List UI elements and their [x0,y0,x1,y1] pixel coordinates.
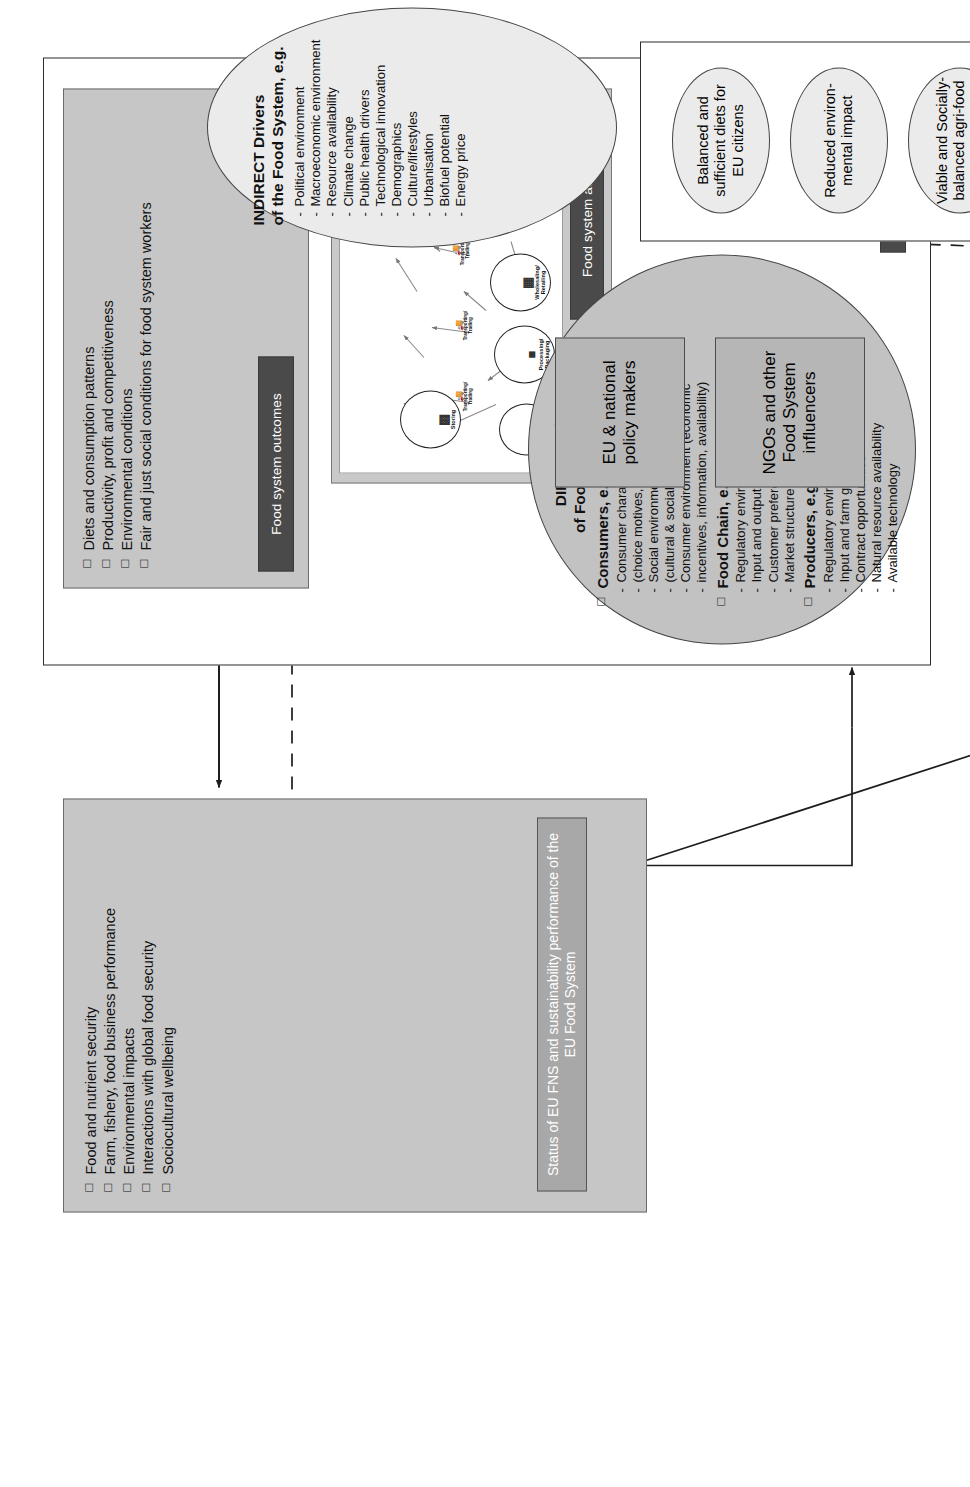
producers-item: Natural resource availability [869,277,885,593]
ngos-box: NGOs and other Food System influencers [715,337,865,487]
indirect-item: Energy price [453,25,469,217]
policy-goal-label: Balanced and sufficient diets for EU cit… [695,76,746,204]
activity-node-wholesaling: ▦ Wholesaling/ Retailing [490,253,551,311]
group-heading: Food Chain, e.g. [714,471,731,588]
indirect-item: Political environment [292,25,308,217]
transport-label-2: 🚚 Transporting/ Trading [455,303,474,347]
group-heading: Producers, e.g. [801,480,818,588]
policy-goal-diets: Balanced and sufficient diets for EU cit… [672,67,770,213]
warehouse-icon: ▩ [437,413,450,425]
indirect-item: Urbanisation [421,25,437,217]
indirect-drivers-content: INDIRECT Drivers of the Food System, e.g… [250,25,472,225]
consumers-item-cont: incentives, information, availability) [694,277,710,593]
indirect-item: Macroeconomic environment [308,25,324,217]
indirect-item: Biofuel potential [437,25,453,217]
policy-goal-label: Reduced environ- mental impact [822,76,856,204]
transport-label-text: Transporting/ Trading [463,310,473,339]
policy-goal-label: Viable and Socially-balanced agri-food b… [934,76,970,204]
policy-goal-environment: Reduced environ- mental impact [790,67,888,213]
transport-label-text: Transporting/ Trading [463,381,473,410]
indirect-drivers-items: Political environment Macroeconomic envi… [292,25,469,217]
indirect-item: Technological innovation [373,25,389,217]
shop-icon: ▦ [521,276,534,288]
factory-icon: ■ [525,350,538,358]
producers-item: Available technology [885,277,901,593]
indirect-item: Demographics [389,25,405,217]
indirect-item: Culture/lifestyles [405,25,421,217]
indirect-drivers-title-line1: INDIRECT Drivers [250,25,269,225]
indirect-drivers-title: INDIRECT Drivers of the Food System, e.g… [250,25,287,225]
activity-node-label: Wholesaling/ Retailing [535,254,547,310]
rotated-diagram-canvas: EU food system Food and nutrient securit… [0,0,970,1487]
policy-makers-box: EU & national policy makers [555,337,685,487]
indirect-drivers-title-line2: of the Food System, e.g. [269,25,288,225]
transport-label-1: 🚚 Transporting/ Trading [455,374,474,418]
indirect-item: Resource availability [324,25,340,217]
activity-node-storing: ▩ Storing [400,390,461,448]
diagram-canvas: EU food system Food and nutrient securit… [0,0,970,1487]
group-heading: Consumers, e.g. [594,471,611,588]
indirect-item: Public health drivers [357,25,373,217]
indirect-item: Climate change [341,25,357,217]
ngos-label: NGOs and other Food System influencers [760,348,820,476]
policy-makers-label: EU & national policy makers [600,348,640,476]
figure-page: EU food system Food and nutrient securit… [0,0,970,1487]
